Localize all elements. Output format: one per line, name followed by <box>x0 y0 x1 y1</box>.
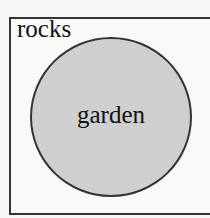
garden-set-circle: garden <box>30 37 192 197</box>
garden-label: garden <box>32 101 190 129</box>
rocks-label: rocks <box>17 15 71 43</box>
